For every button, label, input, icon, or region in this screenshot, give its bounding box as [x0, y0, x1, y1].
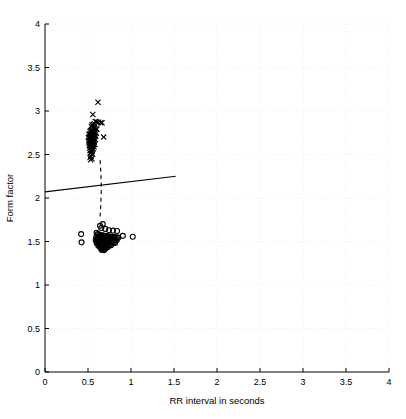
figure-container: 00.511.522.533.5400.511.522.533.54 RR in… [0, 0, 406, 419]
decision-boundary-solid [45, 176, 176, 192]
boundary-lines-layer [45, 160, 176, 219]
scatter-plot: 00.511.522.533.5400.511.522.533.54 RR in… [0, 0, 406, 419]
data-point-cross [90, 112, 95, 117]
x-tick-label: 3.5 [340, 377, 353, 387]
series-cluster-o-lower [79, 222, 136, 253]
y-tick-label: 1.5 [27, 237, 40, 247]
x-tick-label: 4 [386, 377, 391, 387]
y-tick-label: 0 [35, 367, 40, 377]
data-point-circle [79, 232, 84, 237]
x-tick-label: 0.5 [82, 377, 95, 387]
y-tick-label: 3.5 [27, 63, 40, 73]
y-tick-label: 4 [35, 19, 40, 29]
x-tick-label: 1.5 [168, 377, 181, 387]
series-cluster-x-upper [86, 100, 106, 163]
y-tick-label: 2.5 [27, 150, 40, 160]
data-point-circle [79, 240, 84, 245]
data-point-circle [130, 234, 135, 239]
y-tick-label: 1 [35, 280, 40, 290]
y-axis-title: Form factor [4, 174, 15, 223]
x-tick-label: 0 [42, 377, 47, 387]
x-axis-title: RR interval in seconds [169, 395, 264, 406]
data-points-layer [79, 100, 136, 253]
x-tick-label: 3 [300, 377, 305, 387]
gridlines [45, 24, 389, 372]
x-tick-label: 1 [128, 377, 133, 387]
data-point-cross [101, 135, 106, 140]
decision-boundary-dashed [100, 160, 101, 219]
x-tick-label: 2 [214, 377, 219, 387]
x-tick-label: 2.5 [254, 377, 267, 387]
axis-tick-labels-layer: 00.511.522.533.5400.511.522.533.54 [27, 19, 391, 387]
y-tick-label: 3 [35, 106, 40, 116]
data-point-cross [95, 100, 100, 105]
y-tick-label: 2 [35, 193, 40, 203]
y-tick-label: 0.5 [27, 324, 40, 334]
